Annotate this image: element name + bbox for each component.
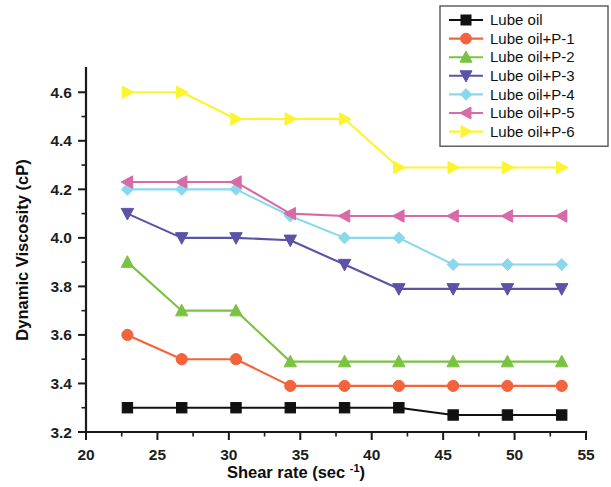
series-3	[121, 256, 568, 367]
y-axis-title: Dynamic Viscosity (cP)	[13, 159, 31, 340]
x-tick-label: 55	[577, 446, 595, 463]
marker-circle	[448, 380, 459, 391]
y-tick-label: 3.4	[50, 375, 72, 392]
legend: Lube oilLube oil+P-1Lube oil+P-2Lube oil…	[440, 6, 608, 146]
legend-label: Lube oil+P-4	[490, 86, 575, 103]
marker-triangle-left	[392, 210, 404, 222]
legend-label: Lube oil	[490, 11, 543, 28]
legend-label: Lube oil+P-6	[490, 123, 575, 140]
marker-circle	[339, 380, 350, 391]
marker-diamond	[556, 259, 568, 271]
marker-square	[231, 403, 241, 413]
series-line	[127, 262, 561, 362]
y-tick-label: 3.6	[50, 326, 72, 343]
marker-triangle-right	[502, 161, 514, 173]
marker-triangle-down	[121, 208, 133, 220]
marker-circle	[393, 380, 404, 391]
marker-circle	[285, 380, 296, 391]
x-axis-ticks: 2025303540455055	[77, 432, 595, 463]
legend-label: Lube oil+P-1	[490, 30, 575, 47]
series-5	[121, 183, 567, 270]
series-line	[127, 189, 561, 264]
marker-triangle-right	[122, 86, 134, 98]
marker-triangle-left	[447, 210, 459, 222]
marker-circle	[230, 354, 241, 365]
x-tick-label: 45	[435, 446, 453, 463]
marker-triangle-left	[501, 210, 513, 222]
y-tick-label: 4.6	[50, 84, 72, 101]
marker-triangle-right	[394, 161, 406, 173]
marker-triangle-left	[338, 210, 350, 222]
marker-triangle-left	[555, 210, 567, 222]
marker-circle	[122, 329, 133, 340]
series-line	[127, 214, 561, 289]
marker-triangle-right	[231, 113, 243, 125]
x-tick-label: 20	[77, 446, 94, 463]
marker-circle	[556, 380, 567, 391]
marker-diamond	[501, 259, 513, 271]
marker-square	[394, 403, 404, 413]
y-tick-label: 3.8	[50, 278, 72, 295]
marker-triangle-up	[121, 256, 133, 268]
y-tick-label: 4.2	[50, 181, 72, 198]
marker-square	[448, 410, 458, 420]
x-tick-label: 25	[149, 446, 167, 463]
x-axis-title-superscript: -1	[350, 462, 360, 474]
series-line	[127, 182, 561, 216]
series-1	[122, 403, 567, 421]
marker-square	[461, 15, 471, 25]
x-tick-label: 50	[506, 446, 523, 463]
y-axis-ticks: 3.23.43.63.84.04.24.44.6	[50, 84, 86, 441]
marker-circle	[461, 33, 472, 44]
series-4	[121, 208, 568, 295]
y-tick-label: 4.4	[50, 132, 72, 149]
series-6	[121, 176, 567, 222]
x-tick-label: 40	[363, 446, 380, 463]
viscosity-shear-rate-chart: 20253035404550553.23.43.63.84.04.24.44.6…	[0, 0, 611, 487]
marker-square	[339, 403, 349, 413]
legend-label: Lube oil+P-2	[490, 48, 575, 65]
marker-triangle-right	[448, 161, 460, 173]
marker-diamond	[447, 259, 459, 271]
marker-triangle-right	[177, 86, 189, 98]
x-tick-label: 30	[220, 446, 237, 463]
marker-triangle-right	[285, 113, 297, 125]
marker-diamond	[393, 232, 405, 244]
marker-square	[502, 410, 512, 420]
marker-square	[122, 403, 132, 413]
marker-triangle-right	[557, 161, 569, 173]
marker-circle	[176, 354, 187, 365]
y-tick-label: 4.0	[50, 229, 72, 246]
marker-square	[557, 410, 567, 420]
marker-triangle-down	[338, 259, 350, 271]
marker-circle	[502, 380, 513, 391]
x-axis-title: Shear rate (sec -1)	[227, 462, 365, 481]
x-axis-title-end: )	[360, 463, 366, 481]
legend-label: Lube oil+P-5	[490, 104, 575, 121]
marker-square	[177, 403, 187, 413]
marker-square	[285, 403, 295, 413]
y-tick-label: 3.2	[50, 424, 72, 441]
marker-diamond	[339, 232, 351, 244]
x-tick-label: 35	[292, 446, 310, 463]
chart-canvas: 20253035404550553.23.43.63.84.04.24.44.6…	[0, 0, 611, 487]
legend-label: Lube oil+P-3	[490, 67, 575, 84]
x-axis-title-main: Shear rate (sec	[227, 463, 350, 481]
